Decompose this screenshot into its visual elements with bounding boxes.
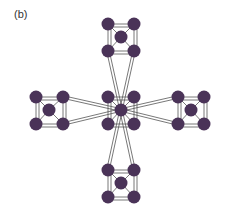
bottom-node bbox=[128, 164, 141, 177]
center-node bbox=[115, 104, 128, 117]
bottom-node bbox=[102, 164, 115, 177]
right-node bbox=[198, 91, 211, 104]
bottom-node bbox=[128, 191, 141, 204]
bottom-node bbox=[115, 177, 128, 190]
left-node bbox=[30, 91, 43, 104]
left-node bbox=[43, 104, 56, 117]
center-node bbox=[128, 118, 141, 131]
cross-graph-diagram bbox=[0, 0, 227, 216]
top-node bbox=[128, 18, 141, 31]
top-node bbox=[128, 45, 141, 58]
bottom-node bbox=[102, 191, 115, 204]
top-node bbox=[102, 18, 115, 31]
left-node bbox=[57, 91, 70, 104]
right-node bbox=[185, 104, 198, 117]
top-node bbox=[102, 45, 115, 58]
right-node bbox=[172, 118, 185, 131]
center-node bbox=[102, 118, 115, 131]
top-node bbox=[115, 31, 128, 44]
right-node bbox=[198, 118, 211, 131]
left-node bbox=[30, 118, 43, 131]
left-node bbox=[57, 118, 70, 131]
center-node bbox=[128, 91, 141, 104]
center-node bbox=[102, 91, 115, 104]
right-node bbox=[172, 91, 185, 104]
